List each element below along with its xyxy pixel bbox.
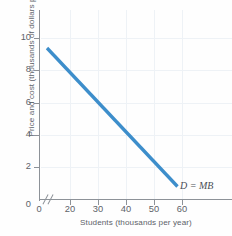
demand-curve-line [47, 48, 178, 187]
demand-curve-series [0, 0, 232, 236]
demand-curve-label: D = MB [180, 180, 213, 191]
chart-figure: Price and cost (thousands of dollars per… [0, 0, 232, 236]
x-axis-title: Students (thousands per year) [40, 218, 232, 227]
